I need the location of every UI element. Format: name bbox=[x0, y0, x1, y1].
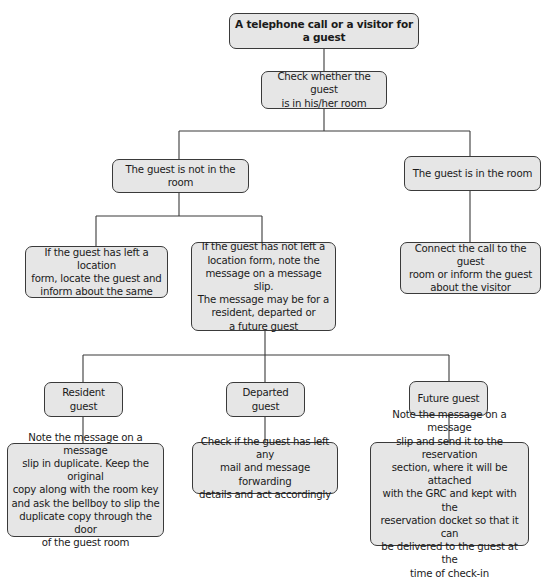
node-future-action-label: Note the message on a message slip and s… bbox=[374, 408, 525, 580]
node-left-location-form: If the guest has left a location form, l… bbox=[25, 246, 168, 298]
node-resident-action: Note the message on a message slip in du… bbox=[7, 443, 164, 537]
node-check-room-label: Check whether the guest is in his/her ro… bbox=[265, 70, 383, 110]
node-future-action: Note the message on a message slip and s… bbox=[370, 442, 529, 546]
node-check-room: Check whether the guest is in his/her ro… bbox=[261, 71, 387, 109]
node-departed-action-label: Check if the guest has left any mail and… bbox=[196, 435, 334, 501]
node-not-left-location-form-label: If the guest has not left a location for… bbox=[195, 240, 332, 332]
node-root-label: A telephone call or a visitor for a gues… bbox=[233, 18, 415, 44]
node-resident-guest-label: Resident guest bbox=[48, 386, 119, 412]
node-not-in-room-label: The guest is not in the room bbox=[116, 163, 245, 189]
node-not-left-location-form: If the guest has not left a location for… bbox=[191, 242, 336, 331]
node-in-room-label: The guest is in the room bbox=[413, 167, 532, 180]
node-connect-call: Connect the call to the guest room or in… bbox=[400, 242, 541, 294]
node-departed-action: Check if the guest has left any mail and… bbox=[192, 442, 338, 494]
node-left-location-form-label: If the guest has left a location form, l… bbox=[29, 246, 164, 299]
node-departed-guest: Departed guest bbox=[226, 382, 305, 417]
node-departed-guest-label: Departed guest bbox=[230, 386, 301, 412]
node-not-in-room: The guest is not in the room bbox=[112, 159, 249, 193]
node-in-room: The guest is in the room bbox=[404, 156, 541, 191]
node-root: A telephone call or a visitor for a gues… bbox=[229, 13, 419, 49]
node-connect-call-label: Connect the call to the guest room or in… bbox=[404, 242, 537, 295]
node-resident-guest: Resident guest bbox=[44, 382, 123, 417]
node-future-guest-label: Future guest bbox=[418, 392, 480, 405]
node-resident-action-label: Note the message on a message slip in du… bbox=[11, 431, 160, 550]
